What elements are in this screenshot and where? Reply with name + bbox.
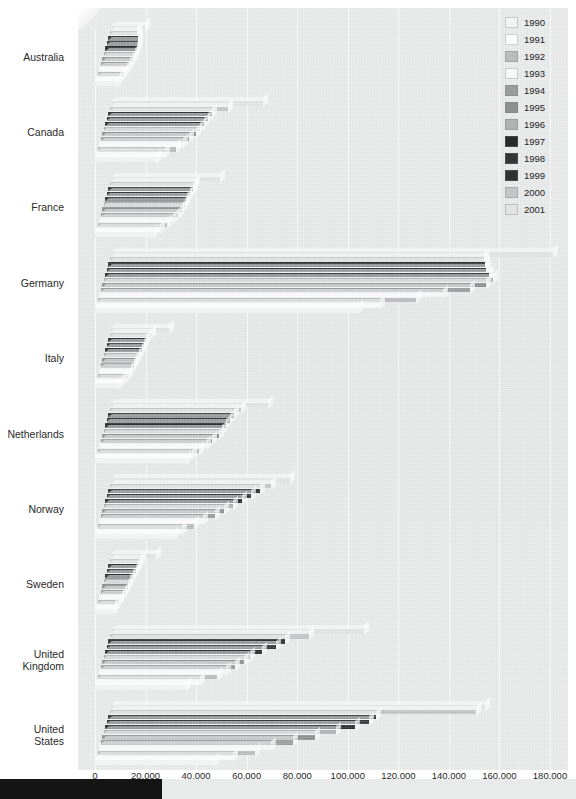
bar-end-cap bbox=[234, 405, 239, 419]
bar-top-facet bbox=[108, 485, 265, 489]
bar-top-facet bbox=[108, 711, 381, 715]
bar-top-facet bbox=[95, 154, 161, 158]
bar-end-cap bbox=[183, 134, 188, 148]
bar-top-facet bbox=[105, 118, 209, 122]
bar-top-facet bbox=[96, 299, 384, 303]
bar-end-cap bbox=[364, 621, 369, 635]
legend-swatch bbox=[505, 85, 518, 96]
bar-top-facet bbox=[108, 183, 198, 187]
bar-top-facet bbox=[107, 113, 213, 117]
bar-end-cap bbox=[151, 324, 156, 338]
bar-end-cap bbox=[194, 516, 199, 530]
bar-top-facet bbox=[107, 264, 491, 268]
legend-item[interactable]: 1995 bbox=[505, 99, 571, 116]
legend-swatch bbox=[505, 170, 518, 181]
legend-label: 1994 bbox=[524, 85, 545, 96]
bar-end-cap bbox=[192, 446, 197, 460]
bar-top-facet bbox=[104, 726, 342, 730]
legend-item[interactable]: 1991 bbox=[505, 31, 571, 48]
bar-top-facet bbox=[99, 741, 276, 745]
bar-top-facet bbox=[111, 701, 490, 705]
bar-top-facet bbox=[105, 419, 231, 423]
legend-item[interactable]: 1993 bbox=[505, 65, 571, 82]
category-label: Sweden bbox=[0, 578, 64, 590]
bar-end-cap bbox=[203, 511, 208, 525]
bar-top-facet bbox=[102, 128, 201, 132]
legend-item[interactable]: 1994 bbox=[505, 82, 571, 99]
bar-top-facet bbox=[99, 214, 177, 218]
bar-end-cap bbox=[336, 722, 341, 736]
bar-end-cap bbox=[355, 717, 360, 731]
legend-swatch bbox=[505, 51, 518, 62]
legend-item[interactable]: 1992 bbox=[505, 48, 571, 65]
legend-label: 1999 bbox=[524, 170, 545, 181]
legend-item[interactable]: 2000 bbox=[505, 184, 571, 201]
bar-end-cap bbox=[113, 602, 118, 616]
bar-end-cap bbox=[470, 280, 475, 294]
bar-top-facet bbox=[101, 133, 195, 137]
bar-series-container bbox=[78, 8, 568, 770]
bar-end-cap bbox=[493, 269, 498, 283]
bar-top-facet bbox=[102, 430, 223, 434]
bar-end-cap bbox=[119, 591, 124, 605]
bar-top-facet bbox=[99, 289, 448, 293]
legend-item[interactable]: 2001 bbox=[505, 201, 571, 218]
legend-swatch bbox=[505, 136, 518, 147]
bar-end-cap bbox=[226, 662, 231, 676]
bar-top-facet bbox=[95, 455, 191, 459]
bar-top-facet bbox=[104, 651, 256, 655]
category-label: Netherlands bbox=[0, 428, 64, 440]
category-label: Norway bbox=[0, 503, 64, 515]
bar-end-cap bbox=[230, 410, 235, 424]
bar-end-cap bbox=[416, 290, 421, 304]
bar-end-cap bbox=[285, 631, 290, 645]
bar-top-facet bbox=[98, 445, 204, 449]
bar-face bbox=[95, 82, 116, 86]
legend-item[interactable]: 1999 bbox=[505, 167, 571, 184]
bar-end-cap bbox=[268, 395, 273, 409]
bar-top-facet bbox=[101, 661, 240, 665]
bar-end-cap bbox=[120, 69, 125, 83]
bar-top-facet bbox=[108, 258, 490, 262]
legend-label: 1998 bbox=[524, 153, 545, 164]
bar-top-facet bbox=[108, 108, 217, 112]
bar-end-cap bbox=[486, 275, 491, 289]
legend-item[interactable]: 1997 bbox=[505, 133, 571, 150]
bar bbox=[95, 308, 358, 312]
bar-end-cap bbox=[212, 430, 217, 444]
bar bbox=[95, 535, 173, 539]
bar-end-cap bbox=[165, 144, 170, 158]
bar-top-facet bbox=[107, 414, 236, 418]
bar-end-cap bbox=[169, 319, 174, 333]
bar-top-facet bbox=[99, 515, 208, 519]
legend-label: 2001 bbox=[524, 204, 545, 215]
legend-item[interactable]: 1990 bbox=[505, 14, 571, 31]
legend-item[interactable]: 1998 bbox=[505, 150, 571, 167]
bar-top-facet bbox=[110, 253, 489, 257]
panel-bevel-decoration bbox=[78, 8, 100, 30]
bar-top-facet bbox=[107, 641, 281, 645]
bar-top-facet bbox=[99, 666, 230, 670]
bar-top-facet bbox=[95, 304, 363, 308]
bar-end-cap bbox=[167, 214, 172, 228]
bar-top-facet bbox=[108, 409, 239, 413]
bar bbox=[95, 685, 186, 689]
bar-top-facet bbox=[98, 294, 422, 298]
bar-top-facet bbox=[107, 188, 196, 192]
bar-top-facet bbox=[105, 646, 267, 650]
bar-end-cap bbox=[244, 652, 249, 666]
bar-end-cap bbox=[380, 295, 385, 309]
bar-end-cap bbox=[145, 18, 150, 32]
category-label: Germany bbox=[0, 277, 64, 289]
footer-block bbox=[0, 779, 162, 799]
bar-end-cap bbox=[263, 93, 268, 107]
bar-top-facet bbox=[104, 198, 190, 202]
bar-end-cap bbox=[196, 124, 201, 138]
legend-item[interactable]: 1996 bbox=[505, 116, 571, 133]
bar-top-facet bbox=[111, 625, 369, 629]
category-label: UnitedStates bbox=[0, 723, 64, 747]
category-label: Canada bbox=[0, 126, 64, 138]
bar-face bbox=[95, 384, 118, 388]
bar-top-facet bbox=[102, 731, 319, 735]
bar-top-facet bbox=[101, 435, 217, 439]
